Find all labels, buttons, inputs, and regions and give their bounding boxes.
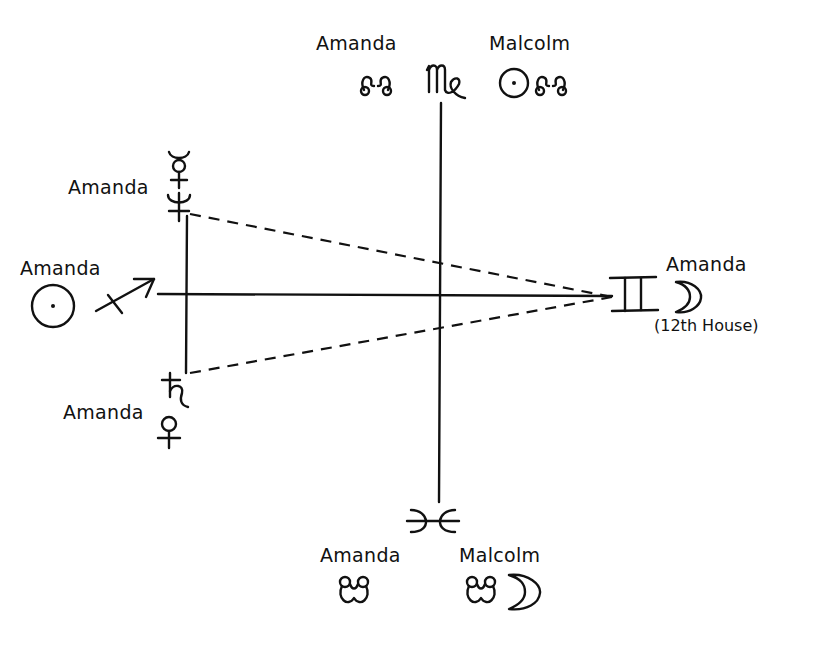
left-vertical-connector [186,216,187,373]
label-amanda-sun: Amanda [20,259,101,278]
axes [158,103,612,502]
label-amanda-bottom: Amanda [320,546,401,565]
pisces-glyph-icon [407,510,459,532]
horizontal-axis-line [158,294,612,296]
south-node-icon [467,577,495,602]
label-amanda-right: Amanda [666,255,747,274]
virgo-glyph-icon [427,66,465,99]
label-12th-house: (12th House) [654,318,758,334]
label-amanda-upper-left: Amanda [68,178,149,197]
vertical-axis-line [439,103,441,502]
label-malcolm-bottom: Malcolm [459,546,540,565]
sagittarius-glyph-icon [96,279,154,313]
label-malcolm-top: Malcolm [489,34,570,53]
north-node-icon [536,77,566,95]
mercury-icon [169,152,189,188]
moon-icon [676,282,701,313]
aspect-line-saturn-moon [190,297,612,373]
north-node-icon [361,77,391,95]
saturn-icon [162,373,188,407]
aspect-line-neptune-moon [190,214,612,297]
south-node-icon [340,577,368,602]
label-amanda-top: Amanda [316,34,397,53]
aspect-diagram: Amanda Malcolm Amanda Amanda Amanda Aman… [0,0,824,659]
gemini-glyph-icon [610,277,658,311]
sun-icon [32,285,74,327]
label-amanda-lower-left: Amanda [63,403,144,422]
venus-icon [158,417,180,448]
moon-icon [509,575,540,610]
sun-icon [500,69,528,97]
